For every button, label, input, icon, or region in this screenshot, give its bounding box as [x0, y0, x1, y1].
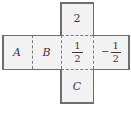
- net-cell-right-outer: − 1 2: [93, 35, 129, 69]
- net-cell-left-outer-label: A: [13, 47, 21, 58]
- outline-top-arm-right: [93, 2, 95, 36]
- net-cell-center-fraction: 1 2: [71, 41, 82, 64]
- outline-top-arm-top: [60, 2, 94, 4]
- outline-row-bottom-left: [2, 69, 61, 71]
- net-cell-right-sign: −: [101, 47, 109, 57]
- outline-row-bottom-right: [93, 69, 130, 71]
- net-cell-right-denominator: 2: [111, 53, 121, 64]
- net-cell-center: 1 2: [61, 35, 93, 69]
- net-cell-right-frac-stack: 1 2: [111, 41, 121, 64]
- net-cell-left-inner: B: [32, 35, 61, 69]
- outline-row-top-right: [93, 35, 130, 37]
- net-cell-center-frac-stack: 1 2: [72, 41, 82, 64]
- divider-top-center: [61, 35, 93, 36]
- net-cell-left-outer: A: [2, 35, 32, 69]
- net-cell-top-label: 2: [74, 13, 81, 24]
- cube-net-figure: 2 A B 1 2 − 1 2 C: [0, 0, 131, 120]
- divider-center-bottom: [61, 69, 93, 70]
- net-cell-bottom-label: C: [73, 81, 81, 92]
- net-cell-left-inner-label: B: [42, 47, 50, 58]
- outline-top-arm-left: [60, 2, 62, 36]
- net-cell-center-denominator: 2: [72, 53, 82, 64]
- net-cell-center-numerator: 1: [72, 41, 82, 52]
- outline-bottom-arm-bottom: [60, 102, 94, 104]
- outline-bottom-arm-left: [60, 69, 62, 104]
- net-cell-right-fraction: − 1 2: [101, 41, 121, 64]
- outline-row-top-left: [2, 35, 61, 37]
- divider-left-outer-inner: [32, 35, 33, 69]
- net-cell-bottom: C: [61, 69, 93, 103]
- net-cell-top: 2: [61, 2, 93, 35]
- outline-row-left-edge: [2, 35, 4, 70]
- net-cell-right-numerator: 1: [111, 41, 121, 52]
- divider-center-right: [93, 35, 94, 69]
- outline-bottom-arm-right: [93, 69, 95, 104]
- divider-left-inner-center: [61, 35, 62, 69]
- outline-row-right-edge: [128, 35, 130, 70]
